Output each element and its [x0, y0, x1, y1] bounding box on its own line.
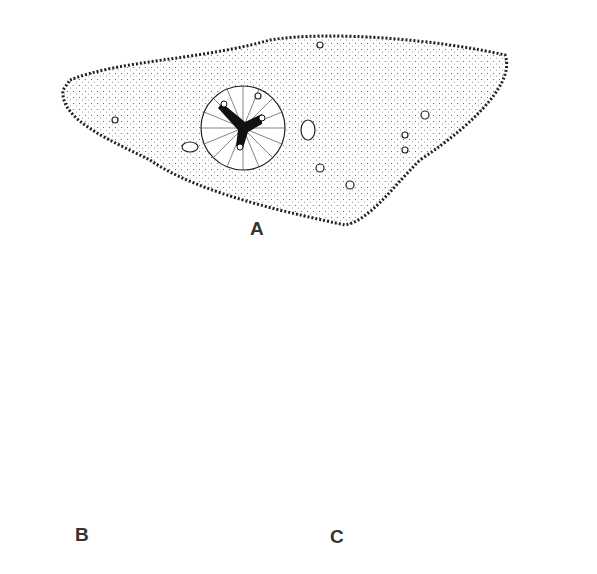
panel-label-a: A — [250, 218, 264, 240]
figure-illustration — [0, 0, 597, 574]
panel-label-c: C — [330, 526, 344, 548]
panel-a-cell — [63, 36, 507, 225]
panel-label-b: B — [75, 524, 89, 546]
